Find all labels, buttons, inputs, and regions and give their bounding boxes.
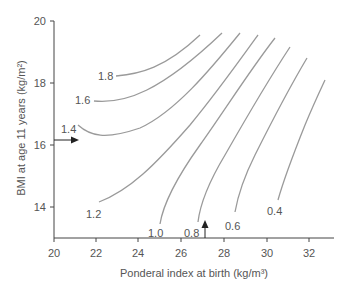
- x-tick-label: 32: [303, 247, 315, 259]
- contour-label: 1.8: [98, 70, 113, 82]
- arrow-up-icon: [202, 220, 209, 238]
- y-axis: 20 18 16 14 BMI at age 11 years (kg/m²): [15, 15, 54, 238]
- y-axis-title: BMI at age 11 years (kg/m²): [15, 60, 27, 196]
- contour-line-1.6: [94, 33, 222, 101]
- contour-line-0.8: [198, 47, 290, 222]
- contour-labels: 1.8 1.6 1.4 1.2 1.0 0.8 0.6 0.4: [61, 70, 282, 239]
- contour-line-1.8: [116, 35, 200, 76]
- x-tick-label: 26: [175, 247, 187, 259]
- contour-lines: [78, 33, 325, 224]
- y-tick-label: 18: [34, 77, 46, 89]
- arrow-right-icon: [54, 137, 79, 144]
- x-tick-label: 28: [218, 247, 230, 259]
- x-tick-label: 20: [48, 247, 60, 259]
- contour-line-0.6: [235, 58, 307, 212]
- contour-label: 0.8: [184, 227, 199, 239]
- y-tick-label: 20: [34, 15, 46, 27]
- x-tick-label: 30: [261, 247, 273, 259]
- x-tick-label: 22: [90, 247, 102, 259]
- contour-label: 0.6: [225, 220, 240, 232]
- x-axis-title: Ponderal index at birth (kg/m³): [120, 267, 268, 279]
- x-tick-label: 24: [132, 247, 144, 259]
- contour-label: 1.6: [75, 94, 90, 106]
- x-axis: 20 22 24 26 28 30 32 Ponderal index at b…: [48, 238, 334, 279]
- y-tick-label: 14: [34, 201, 46, 213]
- contour-label: 1.0: [148, 227, 163, 239]
- y-tick-label: 16: [34, 139, 46, 151]
- contour-line-1.4: [78, 33, 240, 135]
- contour-chart: 20 18 16 14 BMI at age 11 years (kg/m²) …: [0, 0, 350, 294]
- contour-line-1.0: [160, 38, 275, 224]
- contour-label: 0.4: [267, 205, 282, 217]
- contour-label: 1.2: [86, 208, 101, 220]
- contour-label: 1.4: [61, 123, 76, 135]
